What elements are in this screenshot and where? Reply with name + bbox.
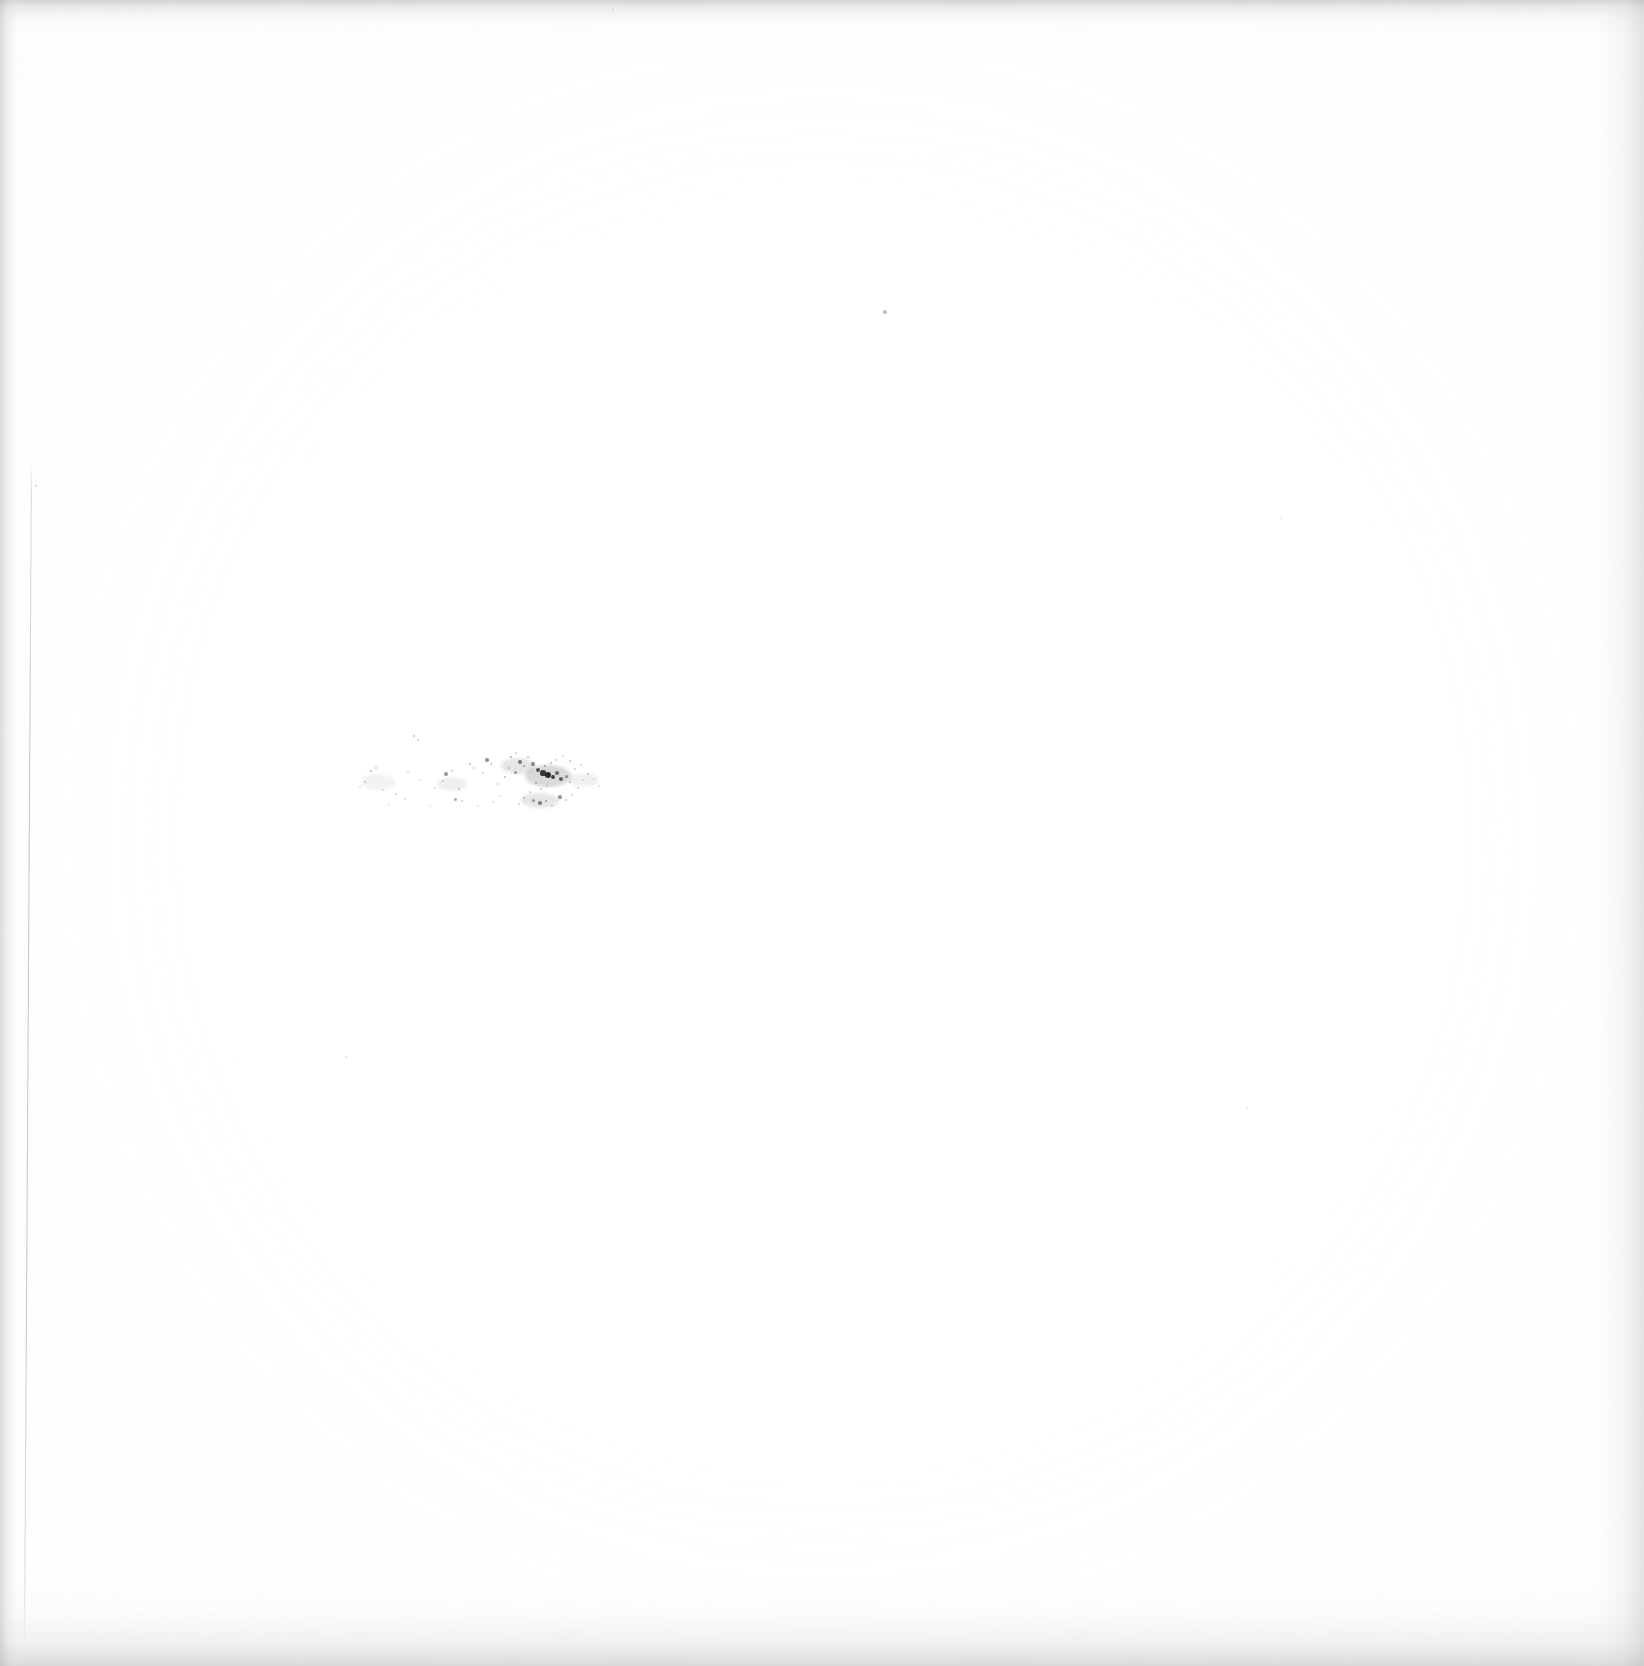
scanned-page xyxy=(0,0,1644,1666)
speck-upper-right xyxy=(883,310,886,313)
paper-background xyxy=(0,0,1644,1666)
